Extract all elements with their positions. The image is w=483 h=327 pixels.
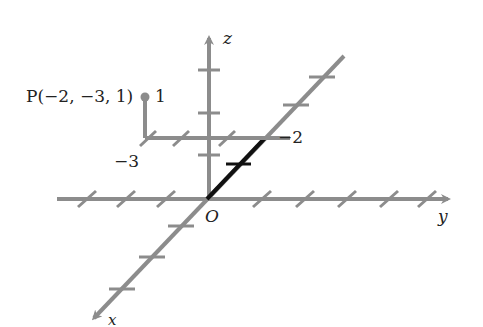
coordinate-diagram [0, 0, 483, 327]
z-axis [198, 38, 220, 199]
point-p-dot [141, 93, 150, 102]
y-value-label: −3 [114, 153, 139, 170]
x-highlight-segment [207, 138, 265, 199]
y-axis [57, 191, 448, 207]
origin-label: O [205, 208, 219, 225]
point-p [141, 93, 150, 139]
z-axis-label: z [223, 30, 232, 47]
projection-line [140, 131, 290, 146]
x-axis-label: x [108, 313, 116, 327]
x-value-label: −2 [278, 129, 303, 146]
point-p-label: P(−2, −3, 1) [26, 88, 133, 105]
z-value-label: 1 [155, 88, 166, 105]
y-axis-label: y [438, 208, 448, 225]
